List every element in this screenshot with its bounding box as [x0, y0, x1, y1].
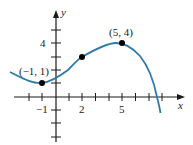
- x-axis: [14, 93, 185, 101]
- function-graph: y x (−1, 1) (5, 4) −1 2 5 4: [0, 0, 193, 145]
- x-axis-label: x: [177, 99, 183, 111]
- y-axis-label: y: [60, 6, 66, 18]
- point-2-3: [79, 54, 85, 60]
- point-5-4: [119, 40, 125, 46]
- x-tick-label-neg1: −1: [36, 103, 48, 115]
- point-label-neg1-1: (−1, 1): [19, 65, 49, 78]
- y-axis-arrow-icon: [53, 10, 59, 18]
- function-curve: [10, 43, 161, 113]
- point-neg1-1: [39, 80, 45, 86]
- x-tick-label-5: 5: [119, 103, 125, 115]
- point-label-5-4: (5, 4): [109, 26, 133, 39]
- y-tick-label-4: 4: [40, 37, 46, 49]
- x-tick-label-2: 2: [79, 103, 85, 115]
